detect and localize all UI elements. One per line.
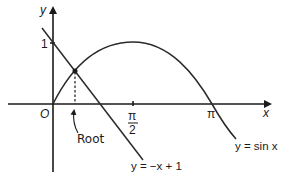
sine-curve-label: y = sin x [235, 140, 278, 152]
y-axis-label: y [39, 3, 47, 17]
x-tick-label-pi-over-2-num: π [128, 109, 136, 123]
root-label: Root [77, 132, 104, 146]
x-axis-label: x [262, 106, 270, 120]
root-arrow-icon [74, 111, 78, 133]
origin-label: O [40, 107, 49, 121]
y-tick-label: 1 [41, 37, 48, 51]
x-tick-label-pi: π [207, 107, 215, 121]
line-curve-label: y = −x + 1 [131, 160, 182, 172]
x-tick-label-pi-over-2-den: 2 [129, 123, 136, 137]
graph-diagram: y x O 1 π 2 π Root y = sin x y = −x + 1 [0, 0, 281, 176]
sine-curve [53, 42, 236, 139]
